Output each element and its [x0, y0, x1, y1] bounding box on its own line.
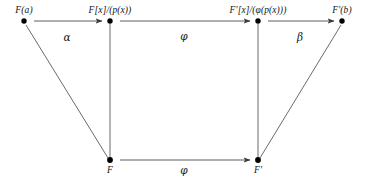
diagram-canvas	[0, 0, 366, 185]
node-dot-Fpb	[339, 18, 344, 23]
node-label-FpxPhi: F'[x]/(φ(p(x)))	[230, 6, 287, 16]
node-label-Fp: F'	[254, 166, 262, 176]
edge-left-diagonal	[26, 25, 108, 158]
edge-right-diagonal	[260, 25, 341, 158]
node-label-F: F	[107, 166, 113, 176]
commutative-diagram: F(a) F[x]/(p(x)) F'[x]/(φ(p(x))) F'(b) F…	[0, 0, 366, 185]
node-dot-FxP	[107, 18, 112, 23]
node-dot-FpxPhi	[255, 18, 260, 23]
node-label-Fpb: F'(b)	[332, 6, 351, 16]
edge-label-beta: β	[297, 32, 303, 43]
edge-label-alpha: α	[63, 32, 70, 43]
node-dot-Fp	[255, 157, 261, 163]
node-label-FxP: F[x]/(p(x))	[89, 6, 132, 16]
edge-label-phi-bottom: φ	[180, 165, 187, 176]
node-label-Fa: F(a)	[15, 6, 32, 16]
node-dot-F	[107, 157, 113, 163]
edge-label-phi-top: φ	[180, 31, 187, 42]
node-dot-Fa	[21, 18, 26, 23]
